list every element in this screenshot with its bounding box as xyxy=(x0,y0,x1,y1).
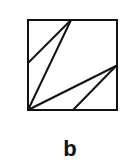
diagram-canvas xyxy=(0,0,124,120)
diagonal-line-2 xyxy=(28,20,71,110)
diagonal-line-3 xyxy=(28,66,116,110)
figure-label: b xyxy=(0,138,124,160)
square-diagram xyxy=(0,0,124,120)
diagonal-line-1 xyxy=(28,20,71,63)
diagonal-line-4 xyxy=(73,66,116,110)
outer-square xyxy=(28,20,117,110)
diagonal-lines xyxy=(28,20,116,110)
